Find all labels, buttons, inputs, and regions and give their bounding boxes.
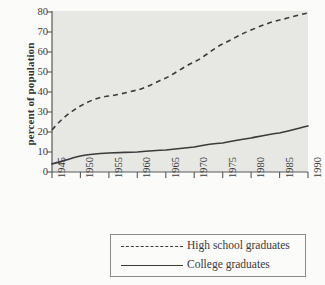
legend-entry-high-school-graduates: High school graduates (111, 237, 305, 257)
x-tick-label: 1965 (170, 132, 181, 178)
x-tick-label: 1990 (312, 132, 323, 178)
chart-figure: percent of population 80 70 60 50 40 30 … (0, 0, 325, 285)
x-tick-label: 1955 (113, 132, 124, 178)
legend-entry-college-graduates: College graduates (111, 256, 305, 276)
x-tick-label: 1980 (255, 132, 266, 178)
chart-legend: High school graduates College graduates (110, 234, 306, 277)
legend-label: High school graduates (187, 239, 290, 251)
x-tick-label: 1945 (56, 132, 67, 178)
x-tick-label: 1985 (284, 132, 295, 178)
x-tick-label: 1950 (84, 132, 95, 178)
x-tick-label: 1970 (198, 132, 209, 178)
legend-dashed-line-swatch (121, 246, 183, 247)
x-tick-label: 1960 (141, 132, 152, 178)
legend-label: College graduates (187, 258, 270, 270)
x-tick-label: 1975 (227, 132, 238, 178)
legend-solid-line-swatch (121, 265, 183, 266)
